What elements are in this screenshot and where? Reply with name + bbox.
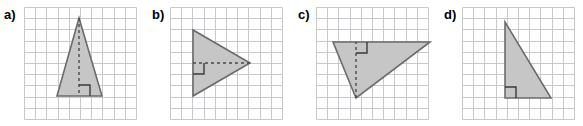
panel-label-c: c) (298, 7, 310, 22)
triangles-figure: a)b)c)d) (0, 0, 583, 126)
panel-label-d: d) (444, 7, 456, 22)
panel-label-a: a) (4, 7, 16, 22)
panel-label-b: b) (152, 7, 164, 22)
figure-canvas: a)b)c)d) (0, 0, 583, 126)
